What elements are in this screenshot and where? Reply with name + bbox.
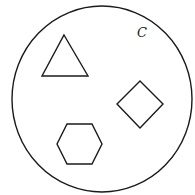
set-label: C [137,25,147,40]
diamond-shape [117,81,163,128]
diagram-svg: C [0,0,195,195]
hexagon-shape [57,124,102,164]
triangle-shape [42,35,88,76]
set-c-circle [12,6,192,192]
set-diagram: C [0,0,195,195]
